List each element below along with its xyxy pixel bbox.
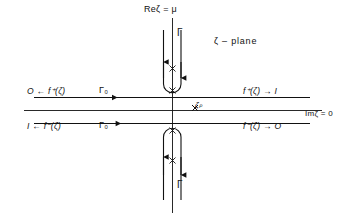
gamma-lower-label: Γ [177,180,183,190]
horizontal-axis-label: Imζ = 0 [305,110,333,118]
vertical-axis-label: Reζ = μ [144,5,177,14]
boundary-value-upper-right: f⁺(ζ) → I [243,87,277,96]
pole-label: ζₚ [195,101,202,109]
boundary-value-lower-left: I ← f⁻(ζ) [27,122,61,131]
plane-label: ζ – plane [214,37,257,46]
gamma-zero-upper-label: Γ₀ [99,86,108,95]
figure-canvas [0,0,347,219]
gamma-zero-lower-label: Γ₀ [99,121,108,130]
boundary-value-upper-left: O ← f⁺(ζ) [27,87,66,96]
zeta-plane-contour-figure: Reζ = μ ζ – plane Imζ = 0 Γ Γ Γ₀ Γ₀ O ← … [0,0,347,219]
gamma-upper-label: Γ [177,28,183,38]
boundary-value-lower-right: f⁻(ζ) → O [243,122,282,131]
